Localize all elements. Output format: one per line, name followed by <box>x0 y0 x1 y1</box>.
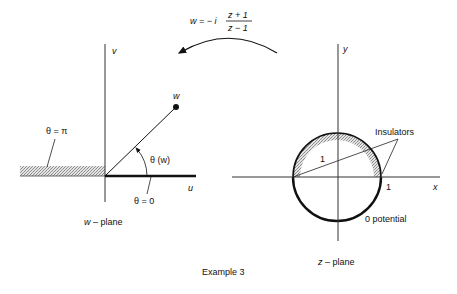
point-w-label: w <box>173 91 180 101</box>
mapping-formula: w = − i z + 1 z − 1 <box>190 10 252 33</box>
insulator-region <box>293 133 381 177</box>
mapping-arrow-icon <box>181 38 277 53</box>
angle-theta-label: θ (w) <box>150 155 170 165</box>
u-axis-label: u <box>188 183 193 193</box>
insulators-label: Insulators <box>375 127 415 137</box>
formula-numerator: z + 1 <box>227 10 248 20</box>
x-axis-label: x <box>432 182 438 192</box>
radius-label: 1 <box>320 154 325 164</box>
theta-zero-leader <box>147 177 151 194</box>
theta-zero-label: θ = 0 <box>134 196 154 206</box>
theta-pi-label: θ = π <box>46 126 67 136</box>
formula-lhs: w = − i <box>190 16 218 26</box>
ray-to-w <box>105 107 176 176</box>
angle-arc-icon <box>137 149 147 176</box>
z-plane-title: z – plane <box>317 257 355 267</box>
x-tick-one: 1 <box>386 182 391 192</box>
theta-pi-boundary <box>20 166 105 176</box>
formula-denominator: z − 1 <box>227 23 248 33</box>
z-plane: y x 1 1 Insulators 0 potential z – plane <box>232 44 440 267</box>
y-axis-label: y <box>342 44 348 54</box>
conformal-map-diagram: w = − i z + 1 z − 1 v u w θ (w) θ = π θ … <box>0 0 457 294</box>
point-w <box>173 104 179 110</box>
w-plane: v u w θ (w) θ = π θ = 0 w – plane <box>20 44 196 227</box>
figure-caption: Example 3 <box>202 267 245 277</box>
v-axis-label: v <box>112 46 117 56</box>
zero-potential-label: 0 potential <box>365 214 407 224</box>
theta-pi-leader <box>47 139 55 167</box>
w-plane-title: w – plane <box>84 217 123 227</box>
